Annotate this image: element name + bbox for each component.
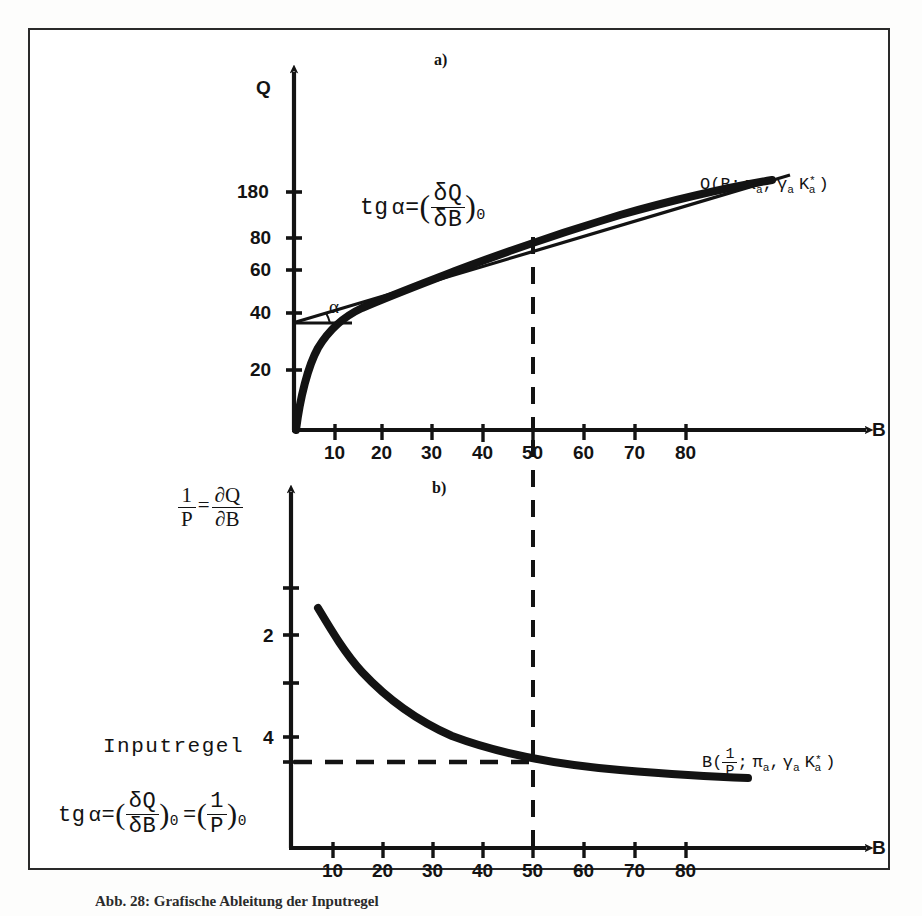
panel-a-axes bbox=[286, 72, 866, 442]
formula-a-subscript: 0 bbox=[476, 206, 486, 224]
panel-b-y-axis-title: 1 P = ∂Q ∂B bbox=[178, 484, 243, 531]
curve-b-fn: B( bbox=[702, 753, 722, 772]
panel-a-alpha-label: α bbox=[329, 297, 339, 316]
panel-b-xtick-3: 40 bbox=[472, 861, 493, 880]
formula-b-paren-close: ) bbox=[159, 797, 170, 831]
panel-a-xtick-3: 40 bbox=[472, 443, 493, 462]
formula-b-equals-2: = bbox=[179, 803, 197, 828]
formula-a-tg: tg bbox=[360, 195, 389, 221]
formula-b-den-delta: δ bbox=[129, 814, 143, 839]
page-canvas: a) Q B 180 80 60 40 20 10 20 30 40 50 60… bbox=[0, 0, 922, 916]
formula-b-paren2-open: ( bbox=[197, 797, 208, 831]
formula-b-num-var: Q bbox=[142, 789, 156, 814]
panel-b-ytick-1: 4 bbox=[263, 728, 274, 747]
formula-a-num-var: Q bbox=[448, 181, 462, 207]
panel-b-tag: b) bbox=[432, 480, 446, 496]
panel-b-xtick-6: 70 bbox=[624, 861, 645, 880]
panel-b-xtick-1: 20 bbox=[372, 861, 393, 880]
panel-b-xtick-7: 80 bbox=[675, 861, 696, 880]
panel-b-xtick-2: 30 bbox=[422, 861, 443, 880]
panel-a-xtick-7: 80 bbox=[675, 443, 696, 462]
curve-a-gamma: γ bbox=[773, 175, 787, 194]
curve-b-comma: , bbox=[770, 753, 780, 772]
formula-b-paren-open: ( bbox=[115, 797, 126, 831]
curve-b-frac-den: P bbox=[722, 763, 737, 780]
formula-a-num-delta: δ bbox=[434, 181, 448, 207]
formula-b-tg: tg bbox=[58, 803, 85, 828]
panel-a-xtick-6: 70 bbox=[624, 443, 645, 462]
panel-a-ytick-0: 180 bbox=[237, 182, 269, 201]
curve-b-pi: π bbox=[748, 753, 763, 772]
formula-b-alpha: α bbox=[85, 804, 101, 827]
curve-a-close: ) bbox=[816, 175, 829, 194]
formula-a-paren-open: ( bbox=[420, 189, 431, 224]
formula-b-subscript-0b: 0 bbox=[238, 813, 247, 829]
panel-b-axes bbox=[283, 492, 866, 858]
curve-a-k: K bbox=[794, 175, 809, 194]
curve-a-comma: , bbox=[763, 175, 773, 194]
curve-b-pi-sub: a bbox=[763, 762, 770, 774]
formula-a-den-delta: δ bbox=[434, 207, 448, 233]
curve-a-pi: π bbox=[741, 175, 756, 194]
panel-a-xtick-4: 50 bbox=[522, 443, 543, 462]
formula-b-numerator: δQ bbox=[126, 790, 159, 815]
curve-b-semicolon: ; bbox=[737, 753, 747, 772]
formula-a-equals: = bbox=[405, 195, 419, 221]
curve-a-pi-sub: a bbox=[756, 184, 763, 196]
panel-a-tag: a) bbox=[434, 52, 447, 68]
panel-b-xtick-4: 50 bbox=[522, 861, 543, 880]
curve-b-frac-num: 1 bbox=[722, 746, 737, 763]
formula-b-frac2-den: P bbox=[207, 815, 227, 840]
curve-b-gamma: γ bbox=[780, 753, 793, 772]
yaxis-b-equals: = bbox=[196, 493, 212, 517]
curve-b-close: ) bbox=[821, 753, 835, 772]
yaxis-b-num-dq: ∂Q bbox=[212, 484, 244, 508]
curve-a-gamma-sub: a bbox=[787, 184, 794, 196]
yaxis-b-den-p: P bbox=[178, 508, 196, 532]
formula-b-equals-1: = bbox=[101, 803, 115, 828]
panel-b-x-axis-name: B bbox=[872, 838, 886, 857]
panel-a-ytick-2: 60 bbox=[250, 260, 271, 279]
formula-a-alpha: α bbox=[389, 196, 406, 221]
formula-a-den-var: B bbox=[448, 207, 462, 233]
panel-a-xtick-1: 20 bbox=[371, 443, 392, 462]
panel-a-xtick-5: 60 bbox=[573, 443, 594, 462]
formula-b-subscript-0: 0 bbox=[170, 813, 179, 829]
curve-b-gamma-sub: a bbox=[793, 762, 800, 774]
formula-b-den-var: B bbox=[142, 814, 156, 839]
formula-b-num-delta: δ bbox=[129, 789, 143, 814]
panel-b-curves bbox=[294, 313, 748, 846]
figure-caption: Abb. 28: Grafische Ableitung der Inputre… bbox=[95, 893, 795, 915]
formula-a-numerator: δQ bbox=[431, 182, 466, 208]
formula-a-denominator: δB bbox=[431, 208, 466, 234]
panel-b-curve-label: B( 1 P ;πa,γaK*a) bbox=[702, 746, 836, 780]
panel-a-y-axis-name: Q bbox=[256, 78, 271, 97]
panel-a-xtick-2: 30 bbox=[421, 443, 442, 462]
panel-a-x-axis-name: B bbox=[872, 420, 886, 439]
yaxis-b-den-db: ∂B bbox=[212, 508, 244, 532]
panel-b-ytick-0: 2 bbox=[263, 626, 274, 645]
formula-a-paren-close: ) bbox=[465, 189, 476, 224]
curve-a-k-sub: a bbox=[809, 184, 816, 196]
panel-b-xtick-0: 10 bbox=[322, 861, 343, 880]
yaxis-b-num-1: 1 bbox=[178, 484, 196, 508]
panel-b-inputrule-formula: tgα=( δQ δB )0=( 1 P )0 bbox=[58, 790, 247, 839]
panel-a-ytick-3: 40 bbox=[250, 303, 271, 322]
formula-b-paren2-close: ) bbox=[227, 797, 238, 831]
inputregel-label: Inputregel bbox=[103, 736, 244, 757]
panel-a-xtick-0: 10 bbox=[324, 443, 345, 462]
formula-b-denominator: δB bbox=[126, 815, 159, 840]
panel-a-ytick-1: 80 bbox=[250, 228, 271, 247]
panel-a-ytick-4: 20 bbox=[250, 360, 271, 379]
curve-b-k: K bbox=[800, 753, 815, 772]
curve-a-fn: Q(B; bbox=[700, 175, 741, 194]
formula-b-frac2-num: 1 bbox=[207, 790, 227, 815]
panel-a-tangent-formula: tgα=( δQ δB )0 bbox=[360, 182, 486, 234]
panel-a-curve-label: Q(B;πa,γaK*a) bbox=[700, 176, 829, 196]
panel-b-xtick-5: 60 bbox=[573, 861, 594, 880]
